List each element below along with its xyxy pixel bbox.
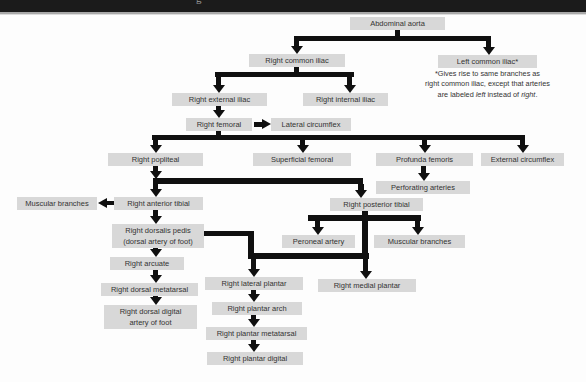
arrow-down-icon [418, 173, 430, 181]
arrow-down-icon [312, 227, 324, 235]
arrow-down-icon [355, 190, 367, 198]
node-line: artery of foot [129, 318, 171, 327]
connector-line [294, 36, 491, 41]
header-divider-light [0, 14, 586, 15]
node-perforating-arteries: Perforating arteries [376, 181, 470, 194]
node-profunda-femoris: Profunda femoris [376, 153, 473, 166]
header-bar: g [0, 0, 586, 12]
arrow-down-icon [150, 216, 162, 224]
footnote-line: right common iliac, except that arteries [425, 79, 550, 88]
node-line: Right dorsal digital [120, 307, 182, 316]
arrow-down-icon [412, 227, 424, 235]
arrow-down-icon [213, 85, 225, 93]
connector-line [204, 231, 250, 236]
node-line: Right dorsalis pedis [125, 226, 190, 235]
node-right-posterior-tibial: Right posterior tibial [330, 198, 423, 211]
node-right-plantar-metatarsal: Right plantar metatarsal [206, 327, 307, 340]
node-right-external-iliac: Right external iliac [172, 93, 267, 106]
node-peroneal-artery: Peroneal artery [282, 235, 355, 248]
arrow-down-icon [344, 85, 356, 93]
arrow-down-icon [419, 145, 431, 153]
footnote-line: are labeled left instead of right. [438, 90, 538, 99]
arrow-down-icon [483, 47, 495, 55]
node-right-medial-plantar: Right medial plantar [318, 279, 416, 292]
footnote-line: *Gives rise to same branches as [435, 69, 540, 78]
node-right-common-iliac: Right common iliac [249, 54, 345, 67]
connector-line [107, 201, 114, 205]
node-left-common-iliac: Left common iliac* [438, 55, 537, 68]
arrow-right-icon [262, 119, 271, 129]
node-right-plantar-arch: Right plantar arch [212, 302, 302, 315]
arrow-down-icon [150, 297, 162, 305]
left-common-iliac-footnote: *Gives rise to same branches as right co… [397, 69, 578, 100]
node-lateral-circumflex: Lateral circumflex [271, 118, 351, 131]
node-right-popliteal: Right popliteal [108, 153, 203, 166]
node-right-dorsalis-pedis: Right dorsalis pedis (dorsal artery of f… [112, 224, 204, 248]
node-muscular-branches-left: Muscular branches [17, 197, 97, 210]
connector-line [153, 178, 363, 184]
node-right-dorsal-metatarsal: Right dorsal metatarsal [101, 283, 198, 296]
node-external-circumflex: External circumflex [481, 153, 564, 166]
arrow-down-icon [150, 249, 162, 257]
node-right-arcuate: Right arcuate [110, 257, 184, 270]
flowchart-page: g [0, 0, 586, 382]
node-right-lateral-plantar: Right lateral plantar [205, 277, 303, 290]
connector-line [215, 72, 354, 77]
node-right-plantar-digital: Right plantar digital [207, 352, 303, 365]
connector-line [421, 166, 426, 173]
arrow-down-icon [360, 271, 372, 279]
node-superficial-femoral: Superficial femoral [253, 153, 351, 166]
node-right-anterior-tibial: Right anterior tibial [114, 197, 203, 210]
arrow-down-icon [213, 110, 225, 118]
node-right-femoral: Right femoral [186, 118, 252, 131]
connector-line [248, 253, 369, 259]
connector-line [152, 135, 525, 140]
connector-line [251, 259, 256, 269]
arrow-down-icon [150, 145, 162, 153]
node-muscular-branches-right: Muscular branches [374, 235, 465, 248]
node-abdominal-aorta: Abdominal aorta [350, 17, 445, 30]
arrow-down-icon [150, 275, 162, 283]
connector-line [308, 215, 421, 221]
arrow-down-icon [248, 319, 260, 327]
arrow-down-icon [248, 344, 260, 352]
arrow-down-icon [248, 269, 260, 277]
node-line: (dorsal artery of foot) [123, 237, 193, 246]
node-right-internal-iliac: Right internal iliac [303, 93, 388, 106]
arrow-down-icon [517, 145, 529, 153]
connector-line [248, 231, 254, 255]
arrow-down-icon [291, 46, 303, 54]
arrow-left-icon [98, 198, 107, 208]
connector-line [363, 259, 368, 271]
cropped-title-text: g [196, 0, 202, 4]
arrow-down-icon [297, 145, 309, 153]
arrow-down-icon [248, 294, 260, 302]
arrow-down-icon [150, 189, 162, 197]
node-right-dorsal-digital: Right dorsal digital artery of foot [104, 305, 197, 329]
